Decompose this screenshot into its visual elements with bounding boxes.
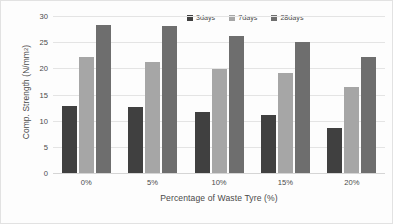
bar-group-5%: 5% <box>119 16 185 173</box>
y-tick-label: 15 <box>40 90 48 99</box>
bar-28days-5%[interactable] <box>162 26 177 173</box>
bar-28days-0%[interactable] <box>96 25 111 173</box>
bar-group-10%: 10% <box>186 16 252 173</box>
bar-groups: 0%5%10%15%20% <box>53 16 385 173</box>
y-axis-title-text: Comp. Strength (N/mm <box>21 51 31 139</box>
x-tick-label: 5% <box>119 178 185 187</box>
bar-3days-0%[interactable] <box>62 106 77 173</box>
bar-7days-0%[interactable] <box>79 57 94 173</box>
x-tick-label: 20% <box>319 178 385 187</box>
bar-7days-20%[interactable] <box>344 87 359 173</box>
bar-28days-20%[interactable] <box>361 57 376 173</box>
bar-28days-10%[interactable] <box>229 36 244 173</box>
bar-3days-15%[interactable] <box>261 115 276 173</box>
y-tick-label: 5 <box>44 142 48 151</box>
bar-group-15%: 15% <box>252 16 318 173</box>
y-tick-label: 10 <box>40 116 48 125</box>
y-tick-label: 20 <box>40 64 48 73</box>
bar-7days-5%[interactable] <box>145 62 160 173</box>
bar-7days-15%[interactable] <box>278 73 293 173</box>
y-tick-label: 30 <box>40 12 48 21</box>
bar-3days-10%[interactable] <box>195 112 210 173</box>
bar-7days-10%[interactable] <box>212 69 227 173</box>
x-tick-label: 15% <box>252 178 318 187</box>
y-tick-label: 25 <box>40 38 48 47</box>
bar-28days-15%[interactable] <box>295 42 310 173</box>
bar-3days-20%[interactable] <box>327 128 342 173</box>
y-axis-title: Comp. Strength (N/mm2) <box>15 7 37 177</box>
bar-3days-5%[interactable] <box>128 107 143 173</box>
plot-area: 051015202530 0%5%10%15%20% <box>53 16 385 173</box>
bar-group-0%: 0% <box>53 16 119 173</box>
x-tick-label: 0% <box>53 178 119 187</box>
x-axis-title: Percentage of Waste Tyre (%) <box>53 193 385 203</box>
y-axis-title-tail: ) <box>21 45 31 48</box>
x-tick-label: 10% <box>186 178 252 187</box>
axis-baseline: 0 <box>53 173 385 174</box>
y-tick-label: 0 <box>44 169 48 178</box>
bar-group-20%: 20% <box>319 16 385 173</box>
bar-chart: 3days7days28days Comp. Strength (N/mm2) … <box>0 0 393 224</box>
